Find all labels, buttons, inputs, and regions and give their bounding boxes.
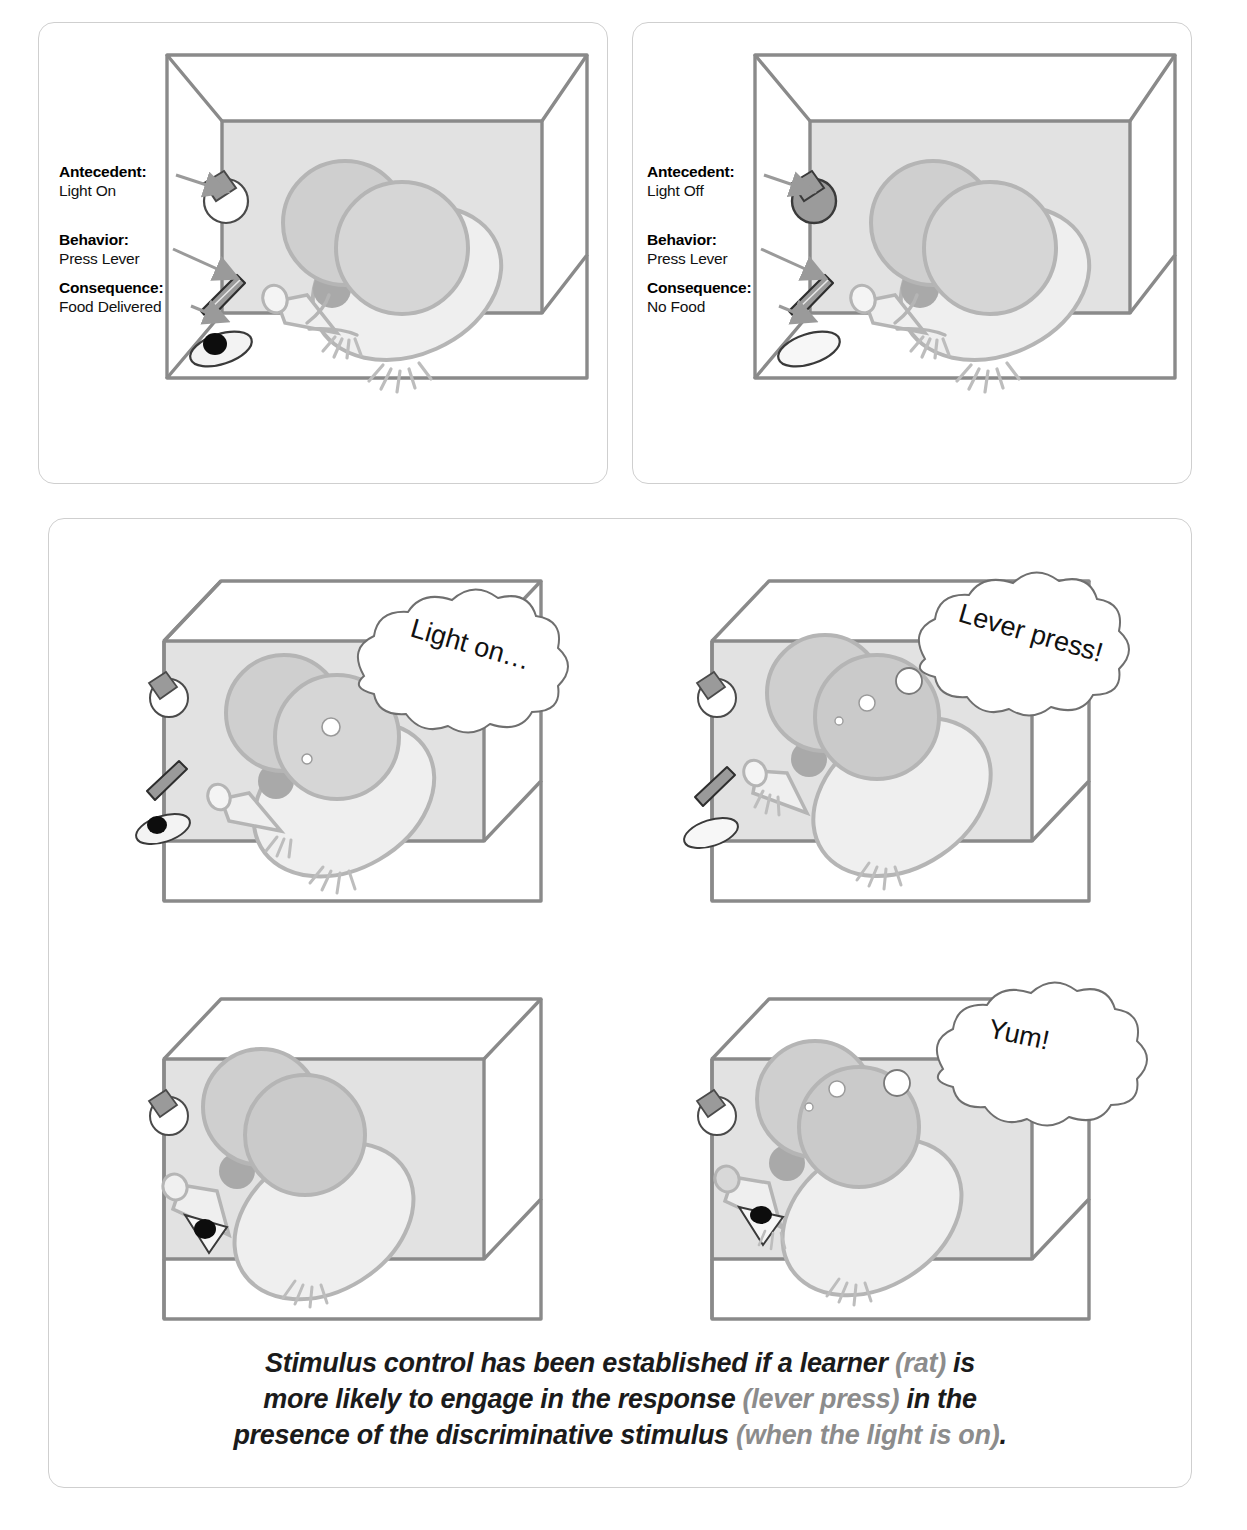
bubble-trail-large <box>896 668 922 694</box>
operant-chamber-light-on <box>157 33 607 413</box>
panel-light-off: Antecedent: Light Off Behavior: Press Le… <box>632 22 1192 484</box>
rat-ear-near <box>245 1075 365 1195</box>
sequence-step-2: Lever press! <box>657 541 1157 951</box>
rat-ear-near <box>924 182 1056 314</box>
label-consequence-value: Food Delivered <box>59 298 163 317</box>
label-consequence-off: Consequence: No Food <box>647 279 751 317</box>
bubble-trail-large <box>884 1070 910 1096</box>
panel-sequence: Light on… <box>48 518 1192 1488</box>
label-consequence: Consequence: Food Delivered <box>59 279 163 317</box>
label-behavior-off: Behavior: Press Lever <box>647 231 728 269</box>
sequence-step-3 <box>109 959 609 1359</box>
bubble-trail-medium <box>829 1081 845 1097</box>
food-pellet <box>203 333 227 355</box>
label-behavior-term: Behavior: <box>59 231 140 250</box>
caption-line-2: more likely to engage in the response (l… <box>49 1381 1191 1417</box>
rat-ear-near <box>336 182 468 314</box>
bubble-trail-small <box>805 1103 813 1111</box>
label-behavior-value: Press Lever <box>59 250 140 269</box>
food-dish-empty <box>774 325 844 373</box>
operant-chamber-light-off <box>745 33 1195 413</box>
figure-caption: Stimulus control has been established if… <box>49 1345 1191 1454</box>
label-consequence-off-term: Consequence: <box>647 279 751 298</box>
label-antecedent-term: Antecedent: <box>59 163 146 182</box>
food-dish-with-pellet <box>186 325 256 373</box>
caption-line-1: Stimulus control has been established if… <box>49 1345 1191 1381</box>
bubble-trail-small <box>835 717 843 725</box>
label-antecedent-off-value: Light Off <box>647 182 734 201</box>
sequence-step-1: Light on… <box>109 541 609 951</box>
food-pellet <box>147 816 167 834</box>
label-antecedent-off-term: Antecedent: <box>647 163 734 182</box>
food-pellet <box>750 1206 772 1224</box>
bubble-trail-small <box>302 754 312 764</box>
bubble-trail-medium <box>322 718 340 736</box>
label-consequence-off-value: No Food <box>647 298 751 317</box>
label-antecedent: Antecedent: Light On <box>59 163 146 201</box>
label-antecedent-value: Light On <box>59 182 146 201</box>
label-behavior-off-term: Behavior: <box>647 231 728 250</box>
label-behavior-off-value: Press Lever <box>647 250 728 269</box>
bubble-cloud <box>358 589 568 732</box>
label-consequence-term: Consequence: <box>59 279 163 298</box>
sequence-step-4: Yum! <box>657 959 1157 1359</box>
label-behavior: Behavior: Press Lever <box>59 231 140 269</box>
label-antecedent-off: Antecedent: Light Off <box>647 163 734 201</box>
panel-light-on: Antecedent: Light On Behavior: Press Lev… <box>38 22 608 484</box>
caption-line-3: presence of the discriminative stimulus … <box>49 1417 1191 1453</box>
bubble-trail-medium <box>859 695 875 711</box>
